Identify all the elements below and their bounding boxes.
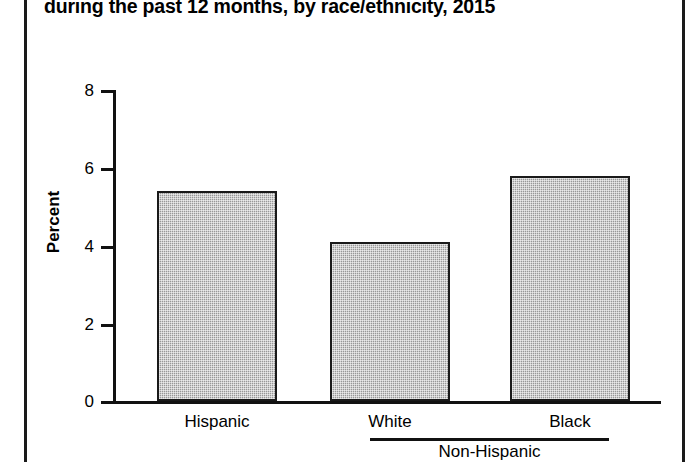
group-bracket-line — [370, 438, 609, 441]
y-tick-mark-4 — [101, 246, 113, 249]
y-axis-title: Percent — [44, 162, 64, 282]
bar-white — [330, 242, 450, 402]
y-tick-mark-2 — [101, 324, 113, 327]
y-tick-mark-0 — [101, 401, 113, 404]
y-tick-label-2: 2 — [54, 316, 94, 333]
y-tick-label-0: 0 — [54, 393, 94, 410]
x-axis-label-hispanic: Hispanic — [157, 412, 277, 432]
bar-hispanic — [157, 191, 277, 401]
x-axis-label-white: White — [330, 412, 450, 432]
x-axis-label-black: Black — [510, 412, 630, 432]
y-tick-mark-6 — [101, 168, 113, 171]
bar-black — [510, 176, 630, 402]
y-axis-line — [113, 90, 116, 403]
group-label-non-hispanic: Non-Hispanic — [370, 442, 609, 462]
y-tick-mark-8 — [101, 90, 113, 93]
y-tick-label-8: 8 — [54, 82, 94, 99]
chart-plot-area: 8 6 4 2 0 Percent Hispanic White Black N… — [0, 0, 698, 462]
